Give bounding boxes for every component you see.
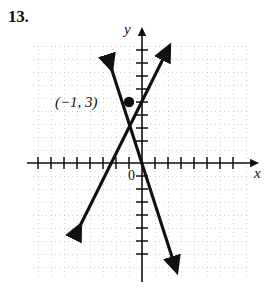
y-axis-label: y — [122, 21, 131, 37]
figure-page: 13. — [0, 0, 274, 288]
coordinate-graph: (−1, 3) y x 0 — [0, 0, 274, 288]
intersection-point-label: (−1, 3) — [55, 94, 98, 111]
x-axis-label: x — [253, 165, 261, 181]
intersection-point-marker — [124, 97, 134, 107]
graph-svg: (−1, 3) y x 0 — [0, 0, 274, 288]
origin-label: 0 — [128, 168, 135, 183]
